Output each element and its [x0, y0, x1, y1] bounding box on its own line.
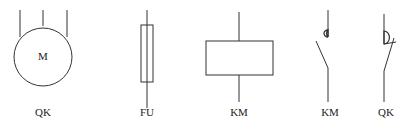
electrical-symbols-diagram [0, 0, 408, 128]
fuse-label: FU [140, 106, 154, 118]
coil-symbol [206, 12, 273, 102]
km-contact-label: KM [321, 106, 339, 118]
coil-label: KM [230, 106, 248, 118]
motor-label: QK [35, 106, 51, 118]
motor-symbol [14, 10, 72, 86]
fuse-symbol [141, 10, 153, 108]
motor-inner-label: M [38, 50, 48, 62]
km-contact-symbol [316, 10, 328, 102]
qk-contact-label: QK [378, 106, 394, 118]
qk-contact-symbol [384, 14, 396, 102]
